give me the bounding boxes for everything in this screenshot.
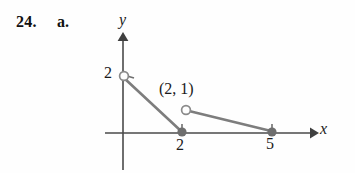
x-axis-arrowhead	[310, 128, 319, 139]
x-tick-label-5: 5	[266, 135, 274, 153]
x-axis-label: x	[320, 120, 327, 138]
y-axis-arrowhead	[118, 32, 129, 41]
open-point-0-2	[120, 72, 129, 81]
x-tick-label-2: 2	[176, 136, 184, 154]
y-tick-label-2: 2	[104, 64, 112, 82]
figure-page: 24. a. y x 2 2 5 (2, 1)	[0, 0, 355, 173]
graph-segment-two	[189, 111, 271, 131]
y-axis-label: y	[119, 11, 126, 29]
open-point-2-1	[182, 106, 191, 115]
point-coordinate-annotation: (2, 1)	[159, 80, 194, 98]
